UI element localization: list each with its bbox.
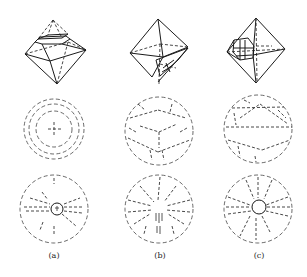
stereogram-c-bottom: [224, 175, 292, 243]
figure-canvas: [0, 0, 307, 277]
stereogram-b-bottom: [125, 175, 193, 243]
stereogram-c-middle: [224, 95, 292, 163]
panel-label-a: (a): [39, 251, 69, 260]
stereogram-a-middle: [24, 99, 84, 159]
panel-label-b: (b): [145, 251, 175, 260]
octahedron-c: [227, 18, 285, 83]
stereogram-a-bottom: [20, 175, 88, 243]
octahedron-b: [130, 19, 188, 84]
octahedron-a: [25, 20, 86, 84]
panel-label-c: (c): [244, 251, 274, 260]
stereogram-b-middle: [125, 97, 193, 165]
